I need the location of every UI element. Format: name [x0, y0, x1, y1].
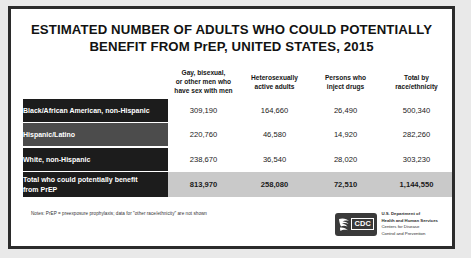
cell-hispanic-heterosexual: 46,580: [239, 123, 310, 146]
table-body: Black/African American, non-Hispanic 309…: [23, 99, 452, 198]
column-header-total: Total by race/ethnicity: [381, 65, 452, 99]
cdc-wordmark: CDC: [351, 218, 374, 229]
cell-black-msm: 309,190: [168, 99, 239, 122]
column-header-msm-line3: have sex with men: [168, 86, 239, 95]
cell-white-msm: 238,670: [168, 148, 239, 171]
title-line-1: ESTIMATED NUMBER OF ADULTS WHO COULD POT…: [29, 21, 434, 38]
cell-white-total: 303,230: [381, 148, 452, 171]
table-row: Black/African American, non-Hispanic 309…: [23, 99, 452, 122]
cell-white-pwid: 28,020: [310, 148, 381, 171]
hhs-agency-text: U.S. Department of Health and Human Serv…: [381, 211, 438, 237]
cell-hispanic-msm: 220,760: [168, 123, 239, 146]
hhs-cdc-logomark: CDC: [335, 213, 377, 236]
column-header-pwid: Persons who inject drugs: [310, 65, 381, 99]
column-header-msm: Gay, bisexual, or other men who have sex…: [168, 65, 239, 99]
prep-data-table: Gay, bisexual, or other men who have sex…: [23, 65, 452, 198]
title-line-2: BENEFIT FROM PrEP, UNITED STATES, 2015: [29, 38, 434, 55]
page-title: ESTIMATED NUMBER OF ADULTS WHO COULD POT…: [29, 21, 434, 56]
column-header-pwid-line2: inject drugs: [310, 82, 381, 91]
column-header-heterosexual-line1: Heterosexually: [239, 73, 310, 82]
row-label-total-line1: Total who could potentially benefit: [23, 175, 168, 184]
cell-total-heterosexual: 258,080: [239, 172, 310, 197]
cell-total-pwid: 72,510: [310, 172, 381, 197]
column-header-pwid-line1: Persons who: [310, 73, 381, 82]
column-header-msm-line1: Gay, bisexual,: [168, 68, 239, 77]
cell-hispanic-pwid: 14,920: [310, 123, 381, 146]
row-label-hispanic-latino: Hispanic/Latino: [23, 123, 168, 146]
column-header-heterosexual: Heterosexually active adults: [239, 65, 310, 99]
table-row: White, non-Hispanic 238,670 36,540 28,02…: [23, 148, 452, 171]
table-total-row: Total who could potentially benefit from…: [23, 172, 452, 197]
row-label-black-african-american: Black/African American, non-Hispanic: [23, 99, 168, 122]
cell-black-heterosexual: 164,660: [239, 99, 310, 122]
column-header-heterosexual-line2: active adults: [239, 82, 310, 91]
footnote: Notes: PrEP = preexposure prophylaxis; d…: [31, 211, 207, 216]
cell-total-overall: 1,144,550: [381, 172, 452, 197]
cell-total-msm: 813,970: [168, 172, 239, 197]
column-header-total-line2: race/ethnicity: [381, 82, 452, 91]
column-header-msm-line2: or other men who: [168, 77, 239, 86]
poster-inner: ESTIMATED NUMBER OF ADULTS WHO COULD POT…: [11, 9, 452, 246]
column-header-rowlabel: [23, 65, 168, 99]
table-row: Hispanic/Latino 220,760 46,580 14,920 28…: [23, 123, 452, 146]
cell-white-heterosexual: 36,540: [239, 148, 310, 171]
cell-black-total: 500,340: [381, 99, 452, 122]
cdc-logo: CDC U.S. Department of Health and Human …: [335, 211, 438, 237]
table-head: Gay, bisexual, or other men who have sex…: [23, 65, 452, 99]
table-header-row: Gay, bisexual, or other men who have sex…: [23, 65, 452, 99]
row-label-total-line2: from PrEP: [23, 185, 168, 194]
cell-black-pwid: 26,490: [310, 99, 381, 122]
poster-card: ESTIMATED NUMBER OF ADULTS WHO COULD POT…: [8, 6, 455, 249]
row-label-total: Total who could potentially benefit from…: [23, 172, 168, 197]
row-label-white-non-hispanic: White, non-Hispanic: [23, 148, 168, 171]
cell-hispanic-total: 282,260: [381, 123, 452, 146]
hhs-eagle-icon: [338, 216, 354, 233]
hhs-line-4: Control and Prevention: [381, 231, 438, 237]
column-header-total-line1: Total by: [381, 73, 452, 82]
